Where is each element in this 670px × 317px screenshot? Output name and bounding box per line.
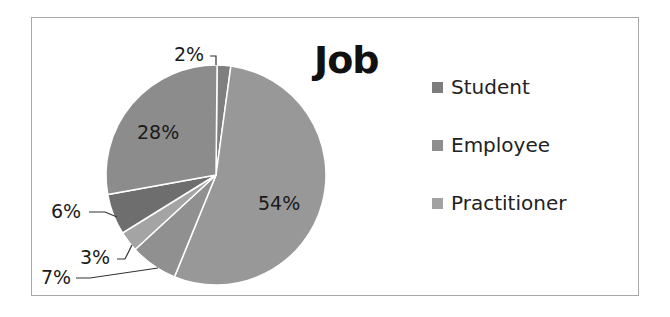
data-label-2pct: 2%	[174, 43, 204, 65]
data-label-7pct: 7%	[41, 266, 71, 288]
data-label-54pct: 54%	[258, 192, 300, 214]
leader-line-3	[117, 245, 132, 259]
legend-item-employee: Employee	[432, 133, 550, 157]
legend-item-practitioner: Practitioner	[432, 191, 566, 215]
legend-swatch-employee	[432, 140, 443, 151]
legend-swatch-practitioner	[432, 198, 443, 209]
data-label-3pct: 3%	[80, 246, 110, 268]
data-label-28pct: 28%	[137, 121, 179, 143]
legend-label-employee: Employee	[451, 133, 550, 157]
legend-label-practitioner: Practitioner	[451, 191, 566, 215]
pie-slices	[106, 65, 326, 285]
legend-swatch-student	[432, 82, 443, 93]
data-label-6pct: 6%	[51, 200, 81, 222]
leader-line-2	[210, 56, 216, 65]
leader-line-7	[76, 268, 158, 278]
legend-item-student: Student	[432, 75, 530, 99]
chart-title: Job	[314, 38, 378, 82]
legend-label-student: Student	[451, 75, 530, 99]
